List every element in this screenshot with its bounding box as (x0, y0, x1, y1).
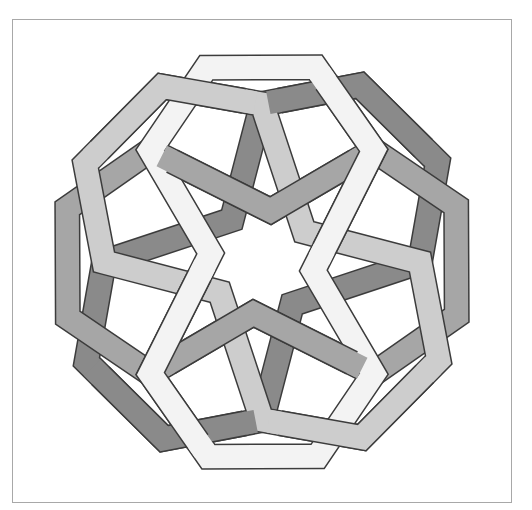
band-medium-over-segment (169, 313, 352, 363)
interlace-pattern (0, 0, 532, 510)
band-medium-over-segment (172, 161, 355, 211)
band-light (85, 86, 438, 437)
